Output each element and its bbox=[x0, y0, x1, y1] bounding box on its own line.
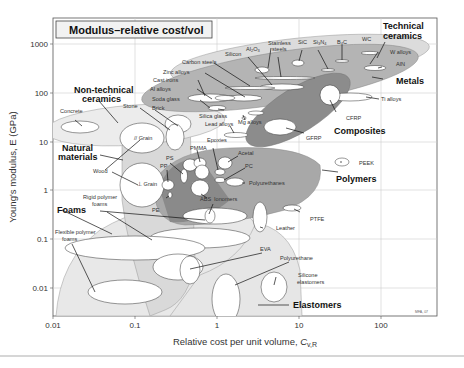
label-technical-ceramics: Technical bbox=[383, 21, 424, 31]
y-axis: 1000 100 10 1 0.1 0.01 Young's modulus, … bbox=[7, 40, 53, 293]
label-grain-parallel: // Grain bbox=[134, 135, 152, 141]
label-silicone: Silicone bbox=[298, 272, 318, 278]
label-zinc-alloys: Zinc alloys bbox=[163, 69, 190, 75]
x-tick-100: 100 bbox=[374, 321, 388, 330]
label-grain-perpendicular: ⊥ Grain bbox=[137, 181, 157, 187]
y-tick-10: 10 bbox=[39, 138, 48, 147]
label-mg-alloys: Mg alloys bbox=[238, 119, 262, 125]
page-divider bbox=[0, 355, 464, 357]
label-polymers: Polymers bbox=[336, 174, 377, 184]
label-ptfe: PTFE bbox=[310, 216, 325, 222]
label-wood: Wood bbox=[93, 168, 108, 174]
x-axis: 0.01 0.1 1 10 100 Relative cost per unit… bbox=[45, 316, 388, 348]
label-cast-irons: Cast irons bbox=[153, 77, 178, 83]
label-pp: PP bbox=[160, 163, 168, 169]
label-polyurethane: Polyurethane bbox=[280, 255, 313, 261]
label-wc: WC bbox=[362, 36, 371, 42]
label-silica-glass: Silica glass bbox=[199, 113, 227, 119]
label-pmma: PMMA bbox=[190, 145, 207, 151]
label-carbon-steels: Carbon steels bbox=[182, 59, 217, 65]
y-tick-100: 100 bbox=[35, 89, 49, 98]
label-ionomers: Ionomers bbox=[214, 196, 238, 202]
label-stainless-steels-2: steels bbox=[272, 46, 287, 52]
label-ti-alloys: Ti alloys bbox=[381, 96, 402, 102]
x-tick-10: 10 bbox=[295, 321, 304, 330]
label-brick: Brick bbox=[152, 105, 165, 111]
label-rigid-polymer-foams: Rigid polymer bbox=[83, 194, 117, 200]
label-stone: Stone bbox=[123, 103, 138, 109]
label-flexible-polymer-foams: Flexible polymer bbox=[55, 229, 96, 235]
x-axis-label: Relative cost per unit volume, Cv,R bbox=[173, 336, 317, 348]
label-pe: PE bbox=[152, 207, 160, 213]
label-ps: PS bbox=[166, 155, 174, 161]
label-rigid-polymer-foams-2: foams bbox=[92, 201, 107, 207]
x-tick-0.1: 0.1 bbox=[129, 321, 141, 330]
label-gfrp: GFRP bbox=[306, 135, 322, 141]
y-axis-label: Young's modulus, E (GPa) bbox=[7, 111, 18, 222]
label-soda-glass: Soda glass bbox=[152, 96, 180, 102]
label-acetal: Acetal bbox=[238, 150, 254, 156]
chart-title-box: Modulus–relative cost/vol bbox=[56, 21, 212, 38]
y-tick-1000: 1000 bbox=[30, 40, 48, 49]
label-leather: Leather bbox=[276, 225, 295, 231]
label-composites: Composites bbox=[334, 126, 386, 136]
chart-title: Modulus–relative cost/vol bbox=[69, 24, 203, 36]
y-tick-0.01: 0.01 bbox=[32, 284, 48, 293]
credit-text: MFA, 07 bbox=[415, 310, 428, 314]
label-concrete: Concrete bbox=[60, 108, 83, 114]
label-abs: ABS bbox=[200, 196, 211, 202]
label-silicon: Silicon bbox=[225, 51, 241, 57]
y-tick-0.1: 0.1 bbox=[37, 235, 49, 244]
x-tick-0.01: 0.01 bbox=[45, 321, 61, 330]
x-tick-1: 1 bbox=[215, 321, 220, 330]
label-natural-materials-2: materials bbox=[58, 152, 98, 162]
label-elastomers: Elastomers bbox=[293, 300, 342, 310]
label-b4c: B4C bbox=[337, 39, 347, 46]
label-eva: EVA bbox=[260, 246, 271, 252]
label-flexible-polymer-foams-2: foams bbox=[62, 236, 77, 242]
label-cfrp: CFRP bbox=[346, 115, 361, 121]
label-foams: Foams bbox=[57, 205, 86, 215]
label-polyurethanes: Polyurethanes bbox=[249, 180, 285, 186]
label-si3n4: Si3N4 bbox=[313, 39, 327, 46]
label-pc: PC bbox=[245, 163, 253, 169]
label-silicone-2: elastomers bbox=[297, 279, 325, 285]
label-peek: PEEK bbox=[359, 160, 374, 166]
label-sic: SiC bbox=[298, 39, 307, 45]
label-epoxies: Epoxies bbox=[207, 137, 227, 143]
ashby-chart: Modulus–relative cost/vol 1000 100 10 1 … bbox=[0, 0, 464, 368]
label-aln: AlN bbox=[396, 61, 405, 67]
label-al-alloys: Al alloys bbox=[150, 86, 171, 92]
label-metals: Metals bbox=[396, 76, 424, 86]
label-lead-alloys: Lead alloys bbox=[205, 121, 234, 127]
y-tick-1: 1 bbox=[44, 186, 49, 195]
label-technical-ceramics-2: ceramics bbox=[383, 31, 422, 41]
label-w-alloys: W alloys bbox=[390, 49, 411, 55]
label-al2o3: Al2O3 bbox=[246, 46, 261, 53]
label-non-technical-ceramics-2: ceramics bbox=[82, 94, 121, 104]
